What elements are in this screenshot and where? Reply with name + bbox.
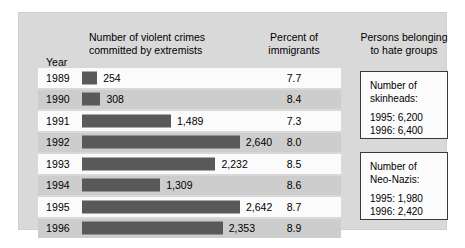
callout-title-neo-nazis: Number of Neo-Nazis:	[370, 161, 443, 186]
table-row: 19922,6408.0	[38, 133, 341, 153]
column-header-percent-immigrants: Percent of immigrants	[255, 31, 333, 56]
row-year-label: 1989	[46, 72, 70, 84]
row-year-label: 1995	[46, 201, 70, 213]
bar-violent-crimes	[82, 200, 240, 213]
bar-value-label: 1,489	[177, 115, 203, 127]
percent-immigrants-value: 8.4	[255, 93, 333, 105]
percent-immigrants-value: 7.7	[255, 72, 333, 84]
bar-value-label: 308	[106, 93, 124, 105]
infographic-figure: Number of violent crimes committed by ex…	[0, 0, 465, 248]
column-header-violent-crimes: Number of violent crimes committed by ex…	[89, 31, 249, 56]
bar-violent-crimes	[82, 222, 223, 235]
table-row: 19911,4897.3	[38, 111, 341, 131]
row-year-label: 1994	[46, 179, 70, 191]
row-year-label: 1992	[46, 136, 70, 148]
row-year-label: 1991	[46, 115, 70, 127]
table-row: 19952,6428.7	[38, 197, 341, 217]
percent-immigrants-value: 8.6	[255, 179, 333, 191]
callout-title-skinheads: Number of skinheads:	[370, 80, 443, 105]
table-row: 19892547.7	[38, 68, 341, 88]
callout-box-neo-nazis: Number of Neo-Nazis: 1995: 1,980 1996: 2…	[360, 152, 448, 220]
percent-immigrants-value: 8.7	[255, 201, 333, 213]
table-row: 19941,3098.6	[38, 176, 341, 196]
table-row: 19932,2328.5	[38, 154, 341, 174]
table-row: 19903088.4	[38, 90, 341, 110]
callout-values-skinheads: 1995: 6,200 1996: 6,400	[370, 112, 443, 137]
bar-violent-crimes	[82, 157, 215, 170]
callout-values-neo-nazis: 1995: 1,980 1996: 2,420	[370, 193, 443, 218]
row-year-label: 1993	[46, 158, 70, 170]
column-header-year: Year	[46, 56, 67, 68]
bar-value-label: 254	[103, 72, 121, 84]
row-year-label: 1990	[46, 93, 70, 105]
column-header-hate-groups: Persons belonging to hate groups	[341, 31, 465, 56]
percent-immigrants-value: 8.5	[255, 158, 333, 170]
bar-violent-crimes	[82, 93, 100, 106]
bar-value-label: 2,353	[229, 222, 255, 234]
bar-value-label: 2,232	[221, 158, 247, 170]
percent-immigrants-value: 8.9	[255, 222, 333, 234]
percent-immigrants-value: 8.0	[255, 136, 333, 148]
row-year-label: 1996	[46, 222, 70, 234]
bar-violent-crimes	[82, 71, 97, 84]
bar-violent-crimes	[82, 179, 160, 192]
bar-violent-crimes	[82, 136, 240, 149]
chart-panel: Number of violent crimes committed by ex…	[19, 13, 446, 229]
callout-box-skinheads: Number of skinheads: 1995: 6,200 1996: 6…	[360, 71, 448, 139]
table-row: 19962,3538.9	[38, 219, 341, 239]
bar-value-label: 1,309	[166, 179, 192, 191]
percent-immigrants-value: 7.3	[255, 115, 333, 127]
bar-violent-crimes	[82, 114, 171, 127]
